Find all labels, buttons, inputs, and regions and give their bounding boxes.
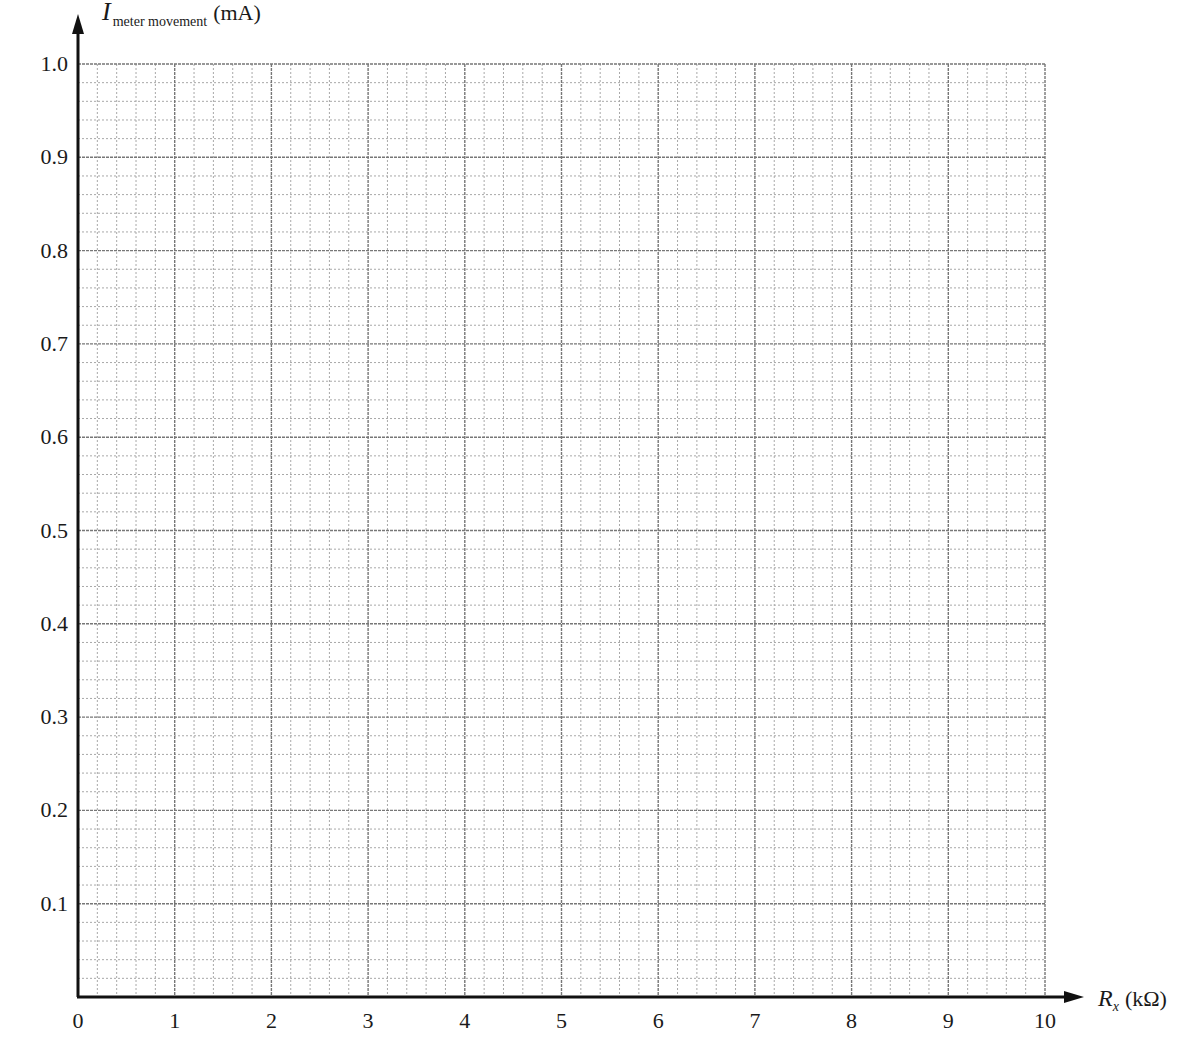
y-tick-label: 0.1 (41, 891, 69, 916)
graph-paper-chart: 012345678910 0.10.20.30.40.50.60.70.80.9… (0, 0, 1196, 1048)
x-label-subscript: x (1112, 999, 1120, 1014)
x-tick-label: 4 (459, 1008, 470, 1033)
x-tick-label: 7 (749, 1008, 760, 1033)
y-axis-label: Imeter movement(mA) (101, 0, 261, 29)
y-tick-label: 0.5 (41, 518, 69, 543)
x-tick-label: 5 (556, 1008, 567, 1033)
y-tick-label: 0.2 (41, 797, 69, 822)
x-axis-arrow-icon (1064, 991, 1084, 1003)
x-tick-label: 2 (266, 1008, 277, 1033)
x-axis-label: Rx(kΩ) (1097, 985, 1167, 1014)
x-tick-label: 1 (169, 1008, 180, 1033)
x-tick-labels: 012345678910 (73, 1008, 1057, 1033)
axes (72, 14, 1084, 1003)
y-axis-arrow-icon (72, 14, 84, 34)
y-label-unit: (mA) (213, 0, 261, 25)
x-tick-label: 3 (363, 1008, 374, 1033)
y-tick-label: 0.3 (41, 704, 69, 729)
y-tick-label: 1.0 (41, 51, 69, 76)
major-grid (78, 64, 1045, 997)
x-tick-label: 9 (943, 1008, 954, 1033)
y-tick-label: 0.4 (41, 611, 69, 636)
y-tick-label: 0.6 (41, 424, 69, 449)
y-label-subscript: meter movement (113, 14, 208, 29)
x-tick-label: 6 (653, 1008, 664, 1033)
y-tick-label: 0.9 (41, 144, 69, 169)
x-tick-label: 0 (73, 1008, 84, 1033)
y-tick-label: 0.7 (41, 331, 69, 356)
x-label-symbol: R (1097, 985, 1113, 1011)
x-label-unit: (kΩ) (1125, 986, 1167, 1011)
y-label-symbol: I (101, 0, 112, 26)
x-tick-label: 10 (1034, 1008, 1056, 1033)
x-tick-label: 8 (846, 1008, 857, 1033)
y-tick-labels: 0.10.20.30.40.50.60.70.80.91.0 (41, 51, 69, 916)
y-tick-label: 0.8 (41, 238, 69, 263)
